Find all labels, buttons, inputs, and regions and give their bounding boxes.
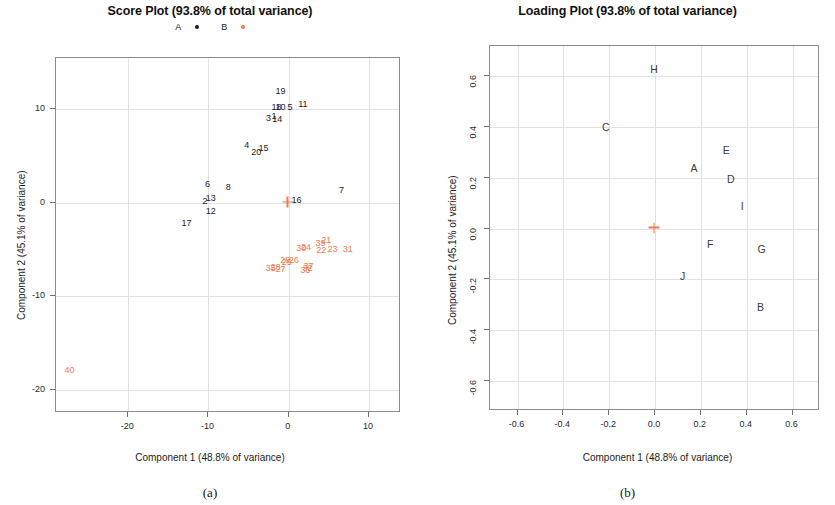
gridline-horizontal: [56, 109, 399, 110]
data-point-label: 13: [206, 194, 216, 203]
yaxis-tick: [50, 295, 55, 296]
xaxis-tick: [700, 410, 701, 415]
data-point-label: 23: [328, 244, 338, 253]
yaxis-tick-label: 0.4: [468, 126, 478, 139]
data-point-label: 31: [343, 245, 353, 254]
yaxis-tick: [484, 228, 489, 229]
yaxis-tick-label: 0.0: [468, 228, 478, 241]
xaxis-tick-label: -10: [201, 421, 214, 431]
legend-label-b: B: [221, 22, 227, 32]
data-point-label: 8: [226, 182, 231, 191]
xaxis-tick: [792, 410, 793, 415]
loading-plot-title: Loading Plot (93.8% of total variance): [420, 4, 835, 18]
xaxis-tick: [288, 412, 289, 417]
data-point-label: J: [680, 270, 685, 281]
origin-cross-icon: [649, 222, 660, 233]
data-point-label: 15: [259, 143, 269, 152]
xaxis-tick-label: 0.4: [739, 419, 752, 429]
origin-cross-icon: [282, 196, 293, 207]
gridline-horizontal: [56, 203, 399, 204]
data-point-label: H: [650, 64, 658, 75]
panel-b-caption: (b): [420, 485, 835, 501]
score-plot-area: [55, 57, 400, 412]
yaxis-tick-label: -0.4: [468, 329, 478, 345]
data-point-label: 11: [298, 99, 307, 108]
data-point-label: B: [757, 302, 764, 313]
yaxis-tick: [50, 108, 55, 109]
yaxis-tick: [484, 278, 489, 279]
data-point-label: 4: [244, 140, 249, 149]
xaxis-tick: [654, 410, 655, 415]
yaxis-tick: [484, 177, 489, 178]
data-point-label: E: [723, 145, 730, 156]
xaxis-tick-label: 10: [363, 421, 373, 431]
yaxis-tick-label: 0.2: [468, 177, 478, 190]
yaxis-tick-label: 10: [11, 103, 45, 113]
loading-plot-yaxis-title: Component 2 (45.1% of variance): [447, 175, 458, 325]
xaxis-tick-label: 0.0: [648, 419, 661, 429]
legend-entry-a: A: [175, 21, 199, 32]
gridline-horizontal: [56, 390, 399, 391]
loading-plot-panel: Loading Plot (93.8% of total variance) -…: [420, 0, 835, 505]
xaxis-tick-label: 0.2: [694, 419, 707, 429]
yaxis-tick: [50, 389, 55, 390]
gridline-horizontal: [490, 330, 818, 331]
xaxis-tick: [368, 412, 369, 417]
xaxis-tick-label: -20: [121, 421, 134, 431]
gridline-vertical: [609, 46, 610, 409]
xaxis-tick-label: -0.4: [555, 419, 571, 429]
score-plot-yaxis-title: Component 2 (45.1% of variance): [16, 170, 27, 320]
gridline-vertical: [701, 46, 702, 409]
yaxis-tick: [484, 126, 489, 127]
gridline-horizontal: [490, 381, 818, 382]
data-point-label: 35: [266, 264, 276, 273]
yaxis-tick: [484, 329, 489, 330]
xaxis-tick: [746, 410, 747, 415]
data-point-label: 17: [182, 219, 192, 228]
gridline-vertical: [793, 46, 794, 409]
data-point-label: 12: [206, 207, 216, 216]
data-point-label: 33: [300, 266, 310, 275]
data-point-label: 14: [272, 114, 282, 123]
gridline-horizontal: [56, 296, 399, 297]
gridline-horizontal: [490, 76, 818, 77]
xaxis-tick-label: -0.2: [600, 419, 616, 429]
score-plot-legend: A B: [0, 21, 420, 32]
panel-a-caption: (a): [0, 485, 420, 501]
yaxis-tick-label: -0.2: [468, 278, 478, 294]
gridline-vertical: [747, 46, 748, 409]
data-point-label: 7: [339, 185, 344, 194]
legend-entry-b: B: [221, 21, 245, 32]
pca-figure: Score Plot (93.8% of total variance) A B…: [0, 0, 835, 505]
yaxis-tick: [484, 75, 489, 76]
score-plot-xaxis-title: Component 1 (48.8% of variance): [0, 452, 420, 463]
gridline-horizontal: [490, 279, 818, 280]
gridline-vertical: [208, 58, 209, 411]
gridline-vertical: [369, 58, 370, 411]
data-point-label: C: [602, 122, 610, 133]
xaxis-tick: [608, 410, 609, 415]
data-point-label: 40: [64, 365, 74, 374]
loading-plot-xaxis-title: Component 1 (48.8% of variance): [480, 452, 835, 463]
data-point-label: 27: [275, 265, 285, 274]
data-point-label: F: [707, 239, 713, 250]
yaxis-tick-label: -0.6: [468, 380, 478, 396]
data-point-label: D: [727, 174, 735, 185]
xaxis-tick: [517, 410, 518, 415]
data-point-label: A: [691, 163, 698, 174]
data-point-label: 22: [316, 246, 326, 255]
score-plot-panel: Score Plot (93.8% of total variance) A B…: [0, 0, 420, 505]
yaxis-tick-label: 0.6: [468, 75, 478, 88]
data-point-label: 6: [205, 180, 210, 189]
data-point-label: 3: [266, 113, 271, 122]
yaxis-tick: [484, 380, 489, 381]
gridline-vertical: [128, 58, 129, 411]
gridline-vertical: [563, 46, 564, 409]
xaxis-tick: [207, 412, 208, 417]
legend-marker-b-dot-icon: [241, 25, 245, 29]
xaxis-tick-label: -0.6: [509, 419, 525, 429]
legend-marker-a-dot-icon: [195, 25, 199, 29]
yaxis-tick-label: -20: [11, 384, 45, 394]
gridline-vertical: [518, 46, 519, 409]
data-point-label: G: [758, 244, 766, 255]
